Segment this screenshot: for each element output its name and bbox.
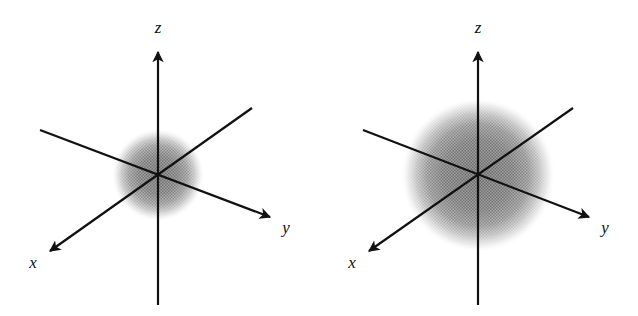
orbital-panel-right: z y x bbox=[319, 0, 638, 316]
axis-label-y: y bbox=[280, 218, 290, 237]
axis-label-x: x bbox=[28, 253, 37, 272]
axis-label-y: y bbox=[599, 218, 609, 237]
orbital-figure: z y x bbox=[0, 0, 638, 316]
orbital-panel-left: z y x bbox=[0, 0, 319, 316]
axis-label-z: z bbox=[474, 18, 482, 37]
axis-line-x bbox=[50, 108, 252, 251]
axis-label-z: z bbox=[154, 18, 162, 37]
axis-label-x: x bbox=[347, 253, 356, 272]
